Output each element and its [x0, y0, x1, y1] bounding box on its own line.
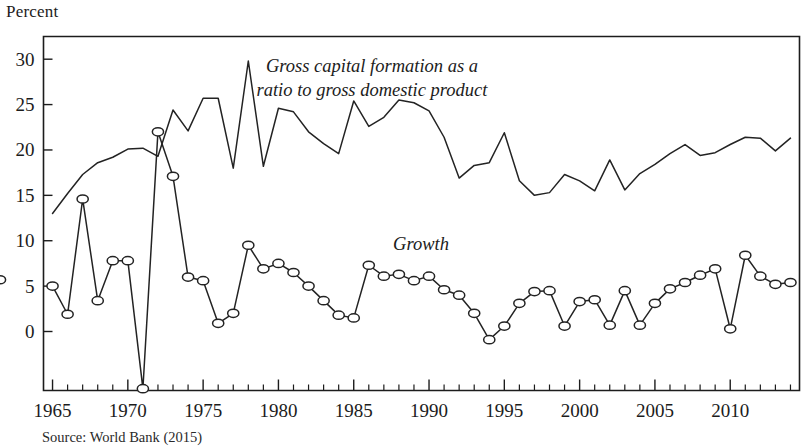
data-point-marker [273, 259, 284, 267]
data-point-marker [198, 277, 209, 285]
data-point-marker [348, 314, 359, 322]
x-axis-ticks: 1965197019751980198519901995200020052010 [34, 400, 750, 421]
data-point-marker [182, 273, 193, 281]
data-point-marker [740, 251, 751, 259]
x-tick-label: 2005 [636, 400, 674, 421]
line-chart-plot: 051015202530 196519701975198019851990199… [0, 0, 805, 447]
x-tick-label: 1990 [410, 400, 448, 421]
y-tick-label: 5 [25, 276, 35, 297]
data-point-marker [785, 278, 796, 286]
data-point-marker [393, 270, 404, 278]
x-axis-minor-ticks [53, 380, 791, 391]
data-point-marker [679, 278, 690, 286]
annotation-growth: Growth [393, 234, 449, 254]
x-tick-label: 1975 [184, 400, 222, 421]
x-tick-label: 1965 [34, 400, 72, 421]
data-point-marker [695, 271, 706, 279]
data-point-marker [152, 128, 163, 136]
y-axis-title: Percent [6, 2, 58, 22]
data-point-marker [664, 285, 675, 293]
data-point-marker [574, 297, 585, 305]
y-axis-ticks: 051015202530 [16, 49, 53, 342]
data-point-marker [228, 309, 239, 317]
data-point-marker [408, 277, 419, 285]
data-point-marker [469, 309, 480, 317]
data-point-marker [770, 280, 781, 288]
data-point-marker [710, 265, 721, 273]
data-point-marker [725, 325, 736, 333]
data-point-marker [0, 276, 6, 284]
data-point-marker [544, 287, 555, 295]
y-tick-label: 15 [16, 185, 35, 206]
source-note: Source: World Bank (2015) [42, 429, 202, 446]
data-point-marker [288, 268, 299, 276]
data-point-marker [499, 322, 510, 330]
data-point-marker [213, 319, 224, 327]
data-point-marker [438, 286, 449, 294]
data-point-marker [333, 311, 344, 319]
data-point-marker [137, 385, 148, 393]
data-point-marker [258, 265, 269, 273]
data-point-marker [484, 336, 495, 344]
data-point-marker [378, 272, 389, 280]
data-point-marker [62, 310, 73, 318]
y-tick-label: 0 [25, 321, 35, 342]
series-line-growth [53, 132, 791, 389]
figure-container: Percent 051015202530 1965197019751980198… [0, 0, 805, 447]
data-point-marker [454, 291, 465, 299]
data-point-marker [47, 282, 58, 290]
y-tick-label: 25 [16, 94, 35, 115]
x-tick-label: 1985 [335, 400, 373, 421]
x-tick-label: 2010 [711, 400, 749, 421]
data-point-marker [529, 287, 540, 295]
data-point-marker [755, 272, 766, 280]
data-point-marker [243, 241, 254, 249]
data-point-marker [634, 321, 645, 329]
data-point-marker [514, 299, 525, 307]
x-tick-label: 1995 [485, 400, 523, 421]
data-point-marker [423, 272, 434, 280]
data-point-marker [92, 297, 103, 305]
data-point-marker [77, 195, 88, 203]
data-point-marker [363, 261, 374, 269]
y-tick-label: 20 [16, 139, 35, 160]
data-point-marker [303, 282, 314, 290]
data-point-marker [318, 297, 329, 305]
data-point-marker [649, 299, 660, 307]
data-point-marker [589, 296, 600, 304]
x-tick-label: 1970 [109, 400, 147, 421]
data-point-marker [619, 287, 630, 295]
y-tick-label: 30 [16, 49, 35, 70]
data-point-marker [122, 257, 133, 265]
data-point-marker [107, 257, 118, 265]
x-tick-label: 2000 [561, 400, 599, 421]
data-point-marker [559, 322, 570, 330]
annotation-gcf-line2: ratio to gross domestic product [257, 80, 489, 100]
data-point-marker [604, 321, 615, 329]
annotation-gcf-line1: Gross capital formation as a [266, 56, 478, 76]
data-point-marker [167, 172, 178, 180]
x-tick-label: 1980 [259, 400, 297, 421]
y-tick-label: 10 [16, 230, 35, 251]
